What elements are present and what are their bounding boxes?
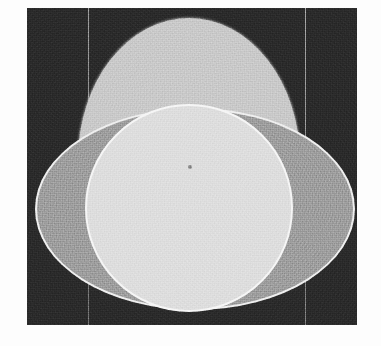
scan-image-plate: [27, 8, 357, 325]
shape-layer: [27, 8, 357, 325]
circle-bright-shape: [85, 104, 293, 312]
center-dot-marker: [188, 165, 192, 169]
screenshot-canvas: [0, 0, 381, 346]
